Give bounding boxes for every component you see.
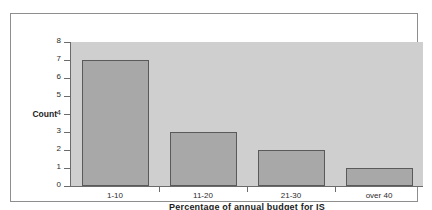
chart-frame: Count 876543210 1-1011-2021-30over 40 Pe… [10,13,418,202]
y-axis-tick-mark [64,186,70,187]
y-axis-tick-label: 0 [39,181,61,191]
x-axis-category-label: 11-20 [159,192,247,200]
bar [258,150,325,186]
y-axis-tick-label-text: 7 [39,55,61,63]
y-axis-tick-mark [64,42,70,43]
y-axis-tick-label: 1 [39,163,61,173]
y-axis-tick-label: 4 [39,109,61,119]
bar [82,60,149,186]
y-axis-tick-mark [64,114,70,115]
x-axis-category-label: 21-30 [247,192,335,200]
y-axis-tick-label-text: 1 [39,163,61,171]
y-axis-tick-label-text: 6 [39,73,61,81]
y-axis-tick-mark [64,96,70,97]
y-axis-tick-label: 3 [39,127,61,137]
y-axis-tick-label-text: 5 [39,91,61,99]
y-axis-tick-mark [64,132,70,133]
y-axis-tick-mark [64,60,70,61]
y-axis-line [70,42,71,187]
y-axis-tick-label-text: 0 [39,181,61,189]
bar [170,132,237,186]
y-axis-tick-label-text: 2 [39,145,61,153]
x-axis-category-label: over 40 [335,192,423,200]
y-axis-tick-mark [64,78,70,79]
y-axis-tick-label-text: 8 [39,37,61,45]
y-axis-tick-label: 8 [39,37,61,47]
y-axis-tick-label: 6 [39,73,61,83]
y-axis-tick-label: 5 [39,91,61,101]
y-axis-tick-label-text: 4 [39,109,61,117]
x-axis-title: Percentage of annual budget for IS [71,203,423,210]
y-axis-tick-label: 7 [39,55,61,65]
bar [346,168,413,186]
y-axis-tick-label-text: 3 [39,127,61,135]
y-axis-tick-mark [64,150,70,151]
y-axis-tick-mark [64,168,70,169]
y-axis-tick-label: 2 [39,145,61,155]
x-axis-category-label: 1-10 [71,192,159,200]
